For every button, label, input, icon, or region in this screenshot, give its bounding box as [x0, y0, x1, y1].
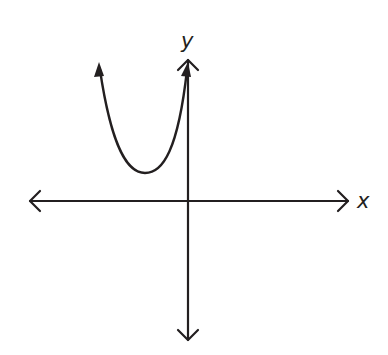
- parabola-left-arrow-icon: [94, 62, 104, 77]
- parabola-curve: [100, 70, 187, 173]
- y-axis-label: y: [180, 29, 194, 53]
- x-axis-label: x: [356, 189, 370, 213]
- coordinate-graph: x y: [0, 0, 388, 355]
